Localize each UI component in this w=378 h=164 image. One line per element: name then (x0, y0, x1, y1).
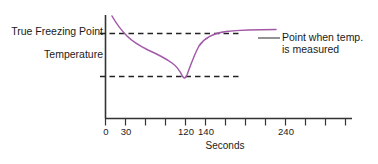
freezing-curve-figure: True Freezing Point Temperature Point wh… (0, 0, 378, 164)
x-tick-label-140: 140 (198, 126, 214, 137)
x-tick-label-0: 0 (103, 126, 108, 137)
cooling-curve-path (112, 16, 276, 78)
temperature-axis-label: Temperature (0, 48, 103, 60)
x-tick-label-240: 240 (278, 126, 294, 137)
annotation-line-1: Point when temp. (282, 31, 363, 43)
true-freezing-point-label: True Freezing Point (0, 25, 103, 37)
x-tick-label-120: 120 (178, 126, 194, 137)
x-tick-label-30: 30 (121, 126, 132, 137)
annotation-line-2: is measured (282, 43, 363, 55)
measurement-point-annotation: Point when temp. is measured (282, 31, 363, 55)
x-axis-title: Seconds (206, 140, 245, 152)
x-axis-ticks (106, 119, 346, 126)
